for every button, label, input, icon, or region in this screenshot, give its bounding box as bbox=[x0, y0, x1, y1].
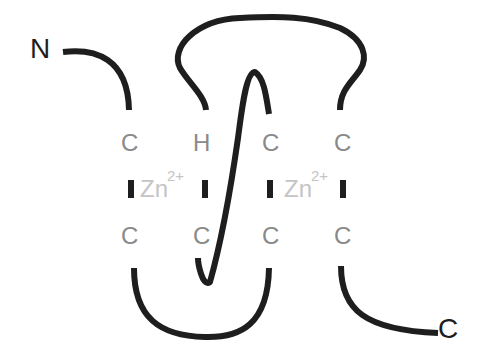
residue-bottom-1: C bbox=[121, 222, 138, 249]
zinc-ion-2: Zn bbox=[284, 175, 312, 202]
residue-bottom-2: C bbox=[193, 222, 210, 249]
residue-bottom-4: C bbox=[334, 222, 351, 249]
zinc-ion-2-charge: 2+ bbox=[311, 167, 328, 184]
residue-top-1: C bbox=[121, 129, 138, 156]
n-terminus-label: N bbox=[30, 33, 50, 64]
c-terminus-label: C bbox=[438, 313, 458, 344]
chain-top-loop bbox=[178, 17, 364, 110]
residue-bottom-3: C bbox=[262, 222, 279, 249]
residue-top-2: H bbox=[193, 129, 210, 156]
chain-n-terminal-segment bbox=[63, 51, 129, 110]
chain-helix-crossing bbox=[198, 72, 269, 283]
chain-c-terminal-segment bbox=[341, 266, 438, 333]
residue-top-4: C bbox=[334, 129, 351, 156]
zinc-finger-diagram: N C C H C C Zn 2+ Zn 2+ C C C C bbox=[0, 0, 488, 352]
zinc-ion-1-charge: 2+ bbox=[167, 167, 184, 184]
zinc-ion-1: Zn bbox=[140, 175, 168, 202]
residue-top-3: C bbox=[262, 129, 279, 156]
